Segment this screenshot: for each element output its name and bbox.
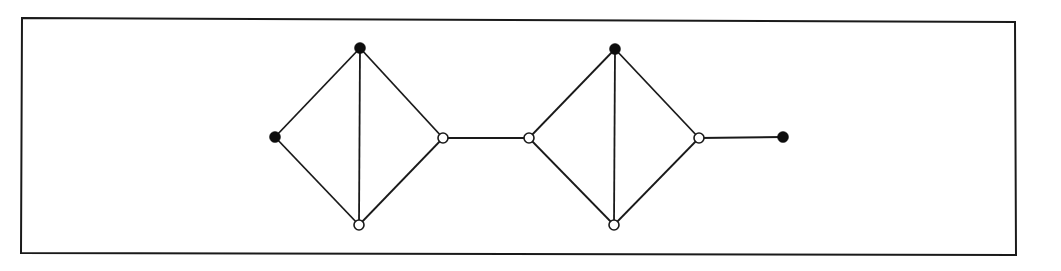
open-vertex-c: [354, 220, 364, 230]
edge-f-g: [614, 49, 615, 225]
filled-vertex-a: [270, 132, 281, 143]
filled-vertex-i: [778, 132, 789, 143]
graph-diagram: [0, 0, 1061, 271]
edge-c-d: [359, 138, 443, 225]
edge-g-h: [614, 138, 699, 225]
edge-e-g: [529, 138, 614, 225]
filled-vertex-b: [355, 43, 366, 54]
open-vertex-d: [438, 133, 448, 143]
edge-e-f: [529, 49, 615, 138]
edge-b-c: [359, 48, 360, 225]
filled-vertex-f: [610, 44, 621, 55]
open-vertex-h: [694, 133, 704, 143]
edge-f-h: [615, 49, 699, 138]
diagram-frame: [21, 18, 1016, 255]
edge-a-c: [275, 137, 359, 225]
open-vertex-e: [524, 133, 534, 143]
node-group: [270, 43, 789, 231]
edge-h-i: [699, 137, 783, 138]
edge-b-d: [360, 48, 443, 138]
open-vertex-g: [609, 220, 619, 230]
edge-a-b: [275, 48, 360, 137]
diagram-canvas: [0, 0, 1061, 271]
